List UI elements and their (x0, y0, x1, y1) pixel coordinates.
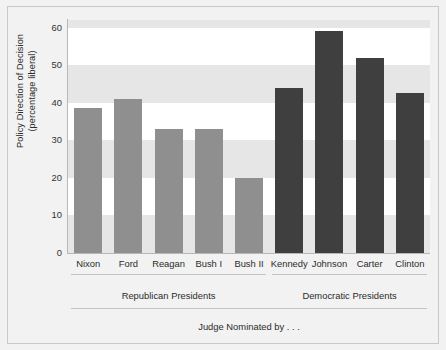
y-tick-label: 0 (38, 247, 62, 258)
group-bracket-line (71, 274, 266, 275)
group-label: Republican Presidents (71, 290, 266, 301)
y-tick-label: 50 (38, 59, 62, 70)
y-tick-label: 30 (38, 134, 62, 145)
y-tick-label: 40 (38, 97, 62, 108)
y-tick-label: 10 (38, 209, 62, 220)
x-title-rule (71, 308, 427, 309)
y-tick-label: 60 (38, 22, 62, 33)
group-label: Democratic Presidents (272, 290, 427, 301)
y-tick-label: 20 (38, 172, 62, 183)
group-bracket-line (272, 274, 427, 275)
x-tick-label: Clinton (370, 258, 446, 269)
chart-figure: Policy Direction of Decision (percentage… (0, 0, 446, 350)
x-axis-title: Judge Nominated by . . . (68, 321, 430, 332)
